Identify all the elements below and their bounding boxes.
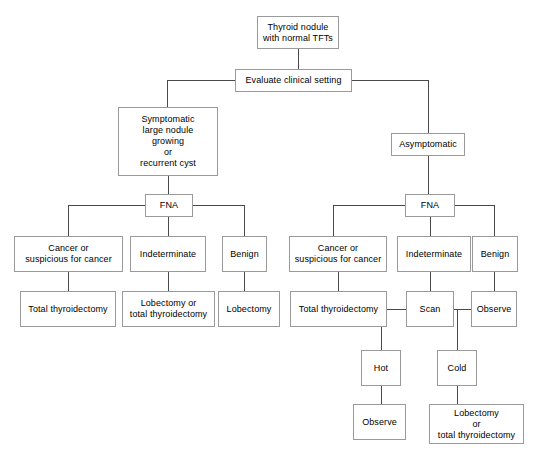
connector-asymptomatic-to-fna-right bbox=[428, 156, 429, 194]
connector-evaluate-to-symptomatic bbox=[167, 80, 168, 107]
connector-fna-right-to-bus-right-r bbox=[455, 205, 495, 206]
connector-evaluate-to-branch-bus-r bbox=[352, 80, 428, 81]
node-l-cancer: Cancer or suspicious for cancer bbox=[14, 236, 123, 272]
node-cold: Cold bbox=[437, 350, 477, 386]
connector-evaluate-to-asymptomatic bbox=[428, 80, 429, 133]
node-asymptomatic: Asymptomatic bbox=[391, 133, 465, 156]
connector-fna-left-to-l-benign bbox=[244, 205, 245, 236]
node-r-cancer: Cancer or suspicious for cancer bbox=[289, 236, 387, 272]
connector-fna-left-to-bus-left-l bbox=[68, 205, 145, 206]
node-evaluate: Evaluate clinical setting bbox=[235, 69, 352, 92]
connector-r-benign-to-r-observe bbox=[494, 272, 495, 291]
connector-l-indeterminate-to-l-lobe-or-total bbox=[168, 272, 169, 291]
connector-r-indeterminate-to-scan bbox=[430, 272, 431, 291]
node-fna-left: FNA bbox=[145, 194, 193, 217]
node-symptomatic: Symptomatic large nodule growing or recu… bbox=[118, 107, 218, 176]
node-r-observe: Observe bbox=[471, 291, 517, 327]
node-l-lobe-or-total: Lobectomy or total thyroidectomy bbox=[122, 291, 215, 327]
connector-fna-right-to-r-indeterminate bbox=[430, 217, 431, 236]
node-hot-observe: Observe bbox=[353, 404, 406, 440]
connector-hot-to-hot-observe bbox=[381, 386, 382, 404]
connector-scan-to-cold bbox=[457, 309, 458, 350]
connector-l-cancer-to-l-total-thy bbox=[68, 272, 69, 291]
node-cold-lobe: Lobectomy or total thyroidectomy bbox=[429, 404, 524, 444]
node-r-total-thy: Total thyroidectomy bbox=[290, 291, 387, 327]
connector-fna-right-to-r-cancer bbox=[333, 205, 334, 236]
connector-fna-left-to-l-cancer bbox=[68, 205, 69, 236]
connector-fna-right-to-bus-right-l bbox=[333, 205, 405, 206]
connector-evaluate-to-branch-bus bbox=[167, 80, 235, 81]
node-l-lobectomy: Lobectomy bbox=[218, 291, 280, 327]
node-hot: Hot bbox=[361, 350, 401, 386]
node-l-total-thy: Total thyroidectomy bbox=[20, 291, 116, 327]
node-l-indeterminate: Indeterminate bbox=[130, 236, 206, 272]
connector-cold-to-cold-lobe bbox=[457, 386, 458, 404]
node-r-benign: Benign bbox=[472, 236, 518, 272]
connector-root-to-evaluate bbox=[298, 49, 299, 69]
node-r-indeterminate: Indeterminate bbox=[397, 236, 471, 272]
node-l-benign: Benign bbox=[222, 236, 267, 272]
connector-fna-right-to-r-benign bbox=[494, 205, 495, 236]
node-fna-right: FNA bbox=[405, 194, 455, 217]
connector-fna-left-to-bus-left-r bbox=[193, 205, 244, 206]
connector-r-cancer-to-r-total-thy bbox=[338, 272, 339, 291]
node-root: Thyroid nodule with normal TFTs bbox=[257, 16, 339, 49]
connector-fna-left-to-l-indeterminate bbox=[168, 217, 169, 236]
thyroid-nodule-flowchart: Thyroid nodule with normal TFTsEvaluate … bbox=[0, 0, 540, 458]
connector-l-benign-to-l-lobectomy bbox=[244, 272, 245, 291]
node-scan: Scan bbox=[406, 291, 454, 327]
connector-symptomatic-to-fna-left bbox=[168, 176, 169, 194]
